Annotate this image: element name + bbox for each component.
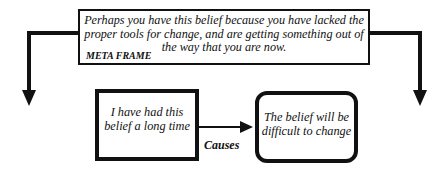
meta-frame-text: Perhaps you have this belief because you… <box>80 14 368 55</box>
right-arrowhead <box>413 90 427 106</box>
right-connector <box>369 33 420 92</box>
cause-box-text: I have had this belief a long time <box>99 105 195 133</box>
left-arrowhead <box>22 90 36 106</box>
causes-arrowhead <box>240 121 253 133</box>
meta-frame-label: META FRAME <box>86 50 151 61</box>
effect-box-text: The belief will be difficult to change <box>259 110 354 139</box>
causes-label: Causes <box>204 138 239 153</box>
cause-box: I have had this belief a long time <box>95 89 199 161</box>
left-connector <box>29 33 79 92</box>
meta-frame-box: Perhaps you have this belief because you… <box>78 9 370 65</box>
effect-box: The belief will be difficult to change <box>255 91 358 163</box>
